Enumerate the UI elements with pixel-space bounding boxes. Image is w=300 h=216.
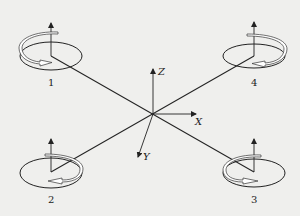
rotor-4: 4 (223, 22, 287, 88)
rotor-label: 2 (48, 194, 54, 205)
y-axis-label: Y (143, 151, 151, 162)
x-axis-label: X (194, 116, 203, 127)
rotor-1: 1 (19, 23, 82, 88)
rotor-label: 4 (251, 77, 257, 88)
rotor-label: 1 (48, 77, 54, 88)
quadrotor-diagram: Z X Y 1 4 2 3 (0, 0, 300, 216)
rotor-3: 3 (223, 139, 285, 205)
z-axis-label: Z (157, 66, 166, 77)
body-axes (138, 69, 196, 157)
frame-arms (51, 56, 254, 172)
rotor-label: 3 (251, 194, 257, 205)
